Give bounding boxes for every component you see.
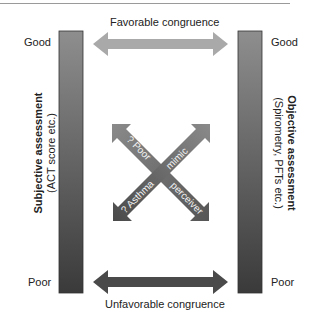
unfavorable-congruence-label: Unfavorable congruence xyxy=(105,298,225,310)
objective-scale-bar xyxy=(238,31,262,293)
perceiver-label: perceiver xyxy=(169,180,206,217)
right-poor-label: Poor xyxy=(271,276,294,288)
objective-axis-title: Objective assessment (Spirometry, PFTs e… xyxy=(272,78,298,228)
objective-subtitle: (Spirometry, PFTs etc.) xyxy=(273,97,285,209)
objective-title: Objective assessment xyxy=(285,78,298,228)
subjective-axis-title: Subjective assessment (ACT score etc.) xyxy=(32,78,58,228)
subjective-subtitle: (ACT score etc.) xyxy=(45,113,57,193)
left-good-label: Good xyxy=(24,36,51,48)
unfavorable-congruence-arrow xyxy=(93,270,228,294)
favorable-congruence-label: Favorable congruence xyxy=(110,16,219,28)
favorable-congruence-arrow xyxy=(93,32,228,56)
subjective-title: Subjective assessment xyxy=(32,78,45,228)
right-good-label: Good xyxy=(271,36,298,48)
subjective-scale-bar xyxy=(59,31,83,293)
left-poor-label: Poor xyxy=(28,276,51,288)
asthma-label: ? Asthma xyxy=(119,178,157,216)
